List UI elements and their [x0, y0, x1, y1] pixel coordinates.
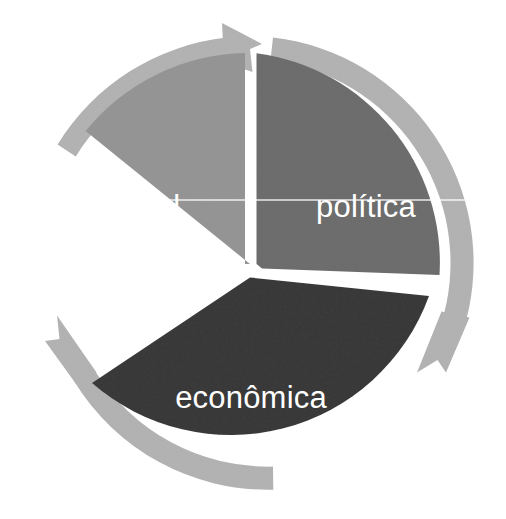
- segment-politica[interactable]: [257, 53, 440, 275]
- label-politica: política: [316, 189, 416, 224]
- cycle-diagram-svg: social política econômica: [0, 0, 506, 519]
- label-social: social: [100, 189, 180, 224]
- arrow-head-right: [417, 312, 470, 373]
- segment-social[interactable]: [86, 53, 250, 264]
- label-economica: econômica: [175, 380, 327, 415]
- arrow-head-bottom-left: [45, 316, 97, 385]
- cycle-diagram: social política econômica: [0, 0, 506, 519]
